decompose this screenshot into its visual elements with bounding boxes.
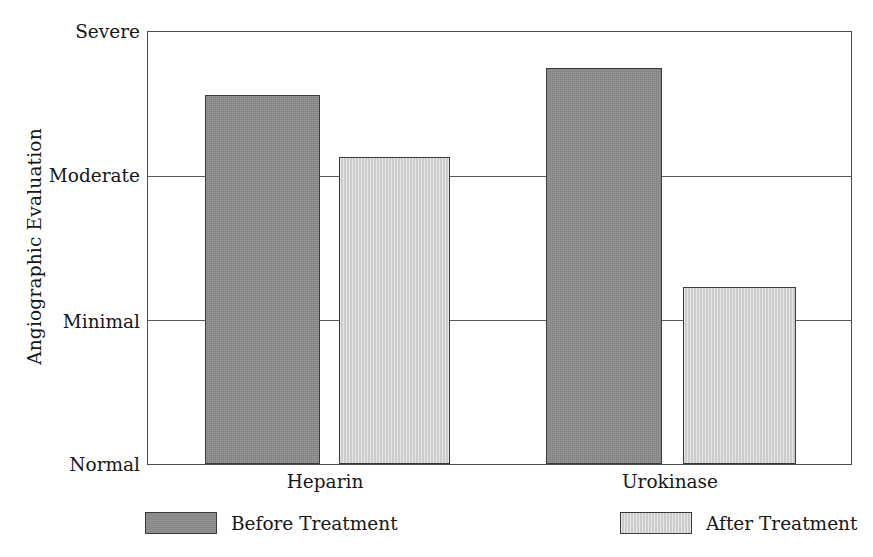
chart-legend: Before Treatment After Treatment xyxy=(0,508,873,542)
bar-heparin-before-treatment xyxy=(205,95,320,464)
y-axis-tick-labels: Severe Moderate Minimal Normal xyxy=(18,0,140,557)
legend-entry-before-treatment: Before Treatment xyxy=(145,508,398,538)
legend-entry-after-treatment: After Treatment xyxy=(620,508,857,538)
legend-swatch-after-treatment xyxy=(620,512,692,534)
legend-swatch-before-treatment xyxy=(145,512,217,534)
y-tick-label-normal: Normal xyxy=(20,456,140,475)
y-tick-label-moderate: Moderate xyxy=(20,167,140,186)
bar-heparin-after-treatment xyxy=(339,157,450,464)
x-tick-label-urokinase: Urokinase xyxy=(540,471,800,492)
bar-urokinase-after-treatment xyxy=(683,287,796,464)
bar-chart-figure: Angiographic Evaluation Severe Moderate … xyxy=(0,0,873,557)
y-tick-label-minimal: Minimal xyxy=(20,313,140,332)
legend-label-after-treatment: After Treatment xyxy=(706,513,857,534)
x-tick-label-heparin: Heparin xyxy=(195,471,455,492)
y-tick-label-severe: Severe xyxy=(20,23,140,42)
plot-area xyxy=(147,31,852,465)
bar-urokinase-before-treatment xyxy=(546,68,662,464)
legend-label-before-treatment: Before Treatment xyxy=(231,513,398,534)
